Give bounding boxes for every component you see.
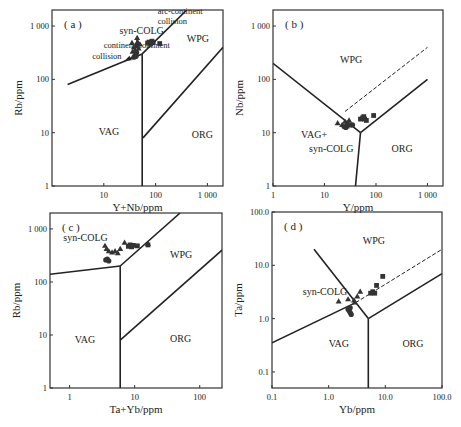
field-label: WPG <box>340 54 362 65</box>
triangle-marker-icon <box>346 117 352 122</box>
y-axis-label: Ta/ppm <box>232 283 244 317</box>
field-label: ORG <box>170 333 191 344</box>
square-marker-icon <box>380 274 385 279</box>
panel-label: ( b ) <box>285 18 304 31</box>
y-tick-label: 1 <box>45 181 49 191</box>
y-tick-label: 1 <box>43 383 47 393</box>
square-marker-icon <box>157 41 162 46</box>
square-marker-icon <box>135 243 140 248</box>
square-marker-icon <box>131 243 136 248</box>
x-tick-label: 100 <box>149 190 162 200</box>
square-marker-icon <box>361 114 366 119</box>
y-tick-label: 10.0 <box>254 260 269 270</box>
triangle-marker-icon <box>336 298 342 303</box>
x-tick-label: 100.0 <box>432 392 451 402</box>
field-label: syn-COLG <box>119 25 163 36</box>
boundary-line <box>143 47 223 138</box>
field-label: VAG <box>329 338 349 349</box>
square-marker-icon <box>374 283 379 288</box>
x-tick-label: 1 000 <box>198 190 217 200</box>
field-label: VAG <box>75 334 95 345</box>
x-tick-label: 10 <box>130 392 139 402</box>
square-marker-icon <box>151 40 156 45</box>
square-marker-icon <box>371 113 376 118</box>
boundary-line <box>368 274 442 319</box>
x-tick-label: 0.1 <box>267 392 278 402</box>
field-boundaries <box>272 249 442 388</box>
y-axis-label: Rb/ppm <box>12 80 24 116</box>
y-tick-label: 100 <box>34 277 47 287</box>
y-tick-label: 1 000 <box>28 224 47 234</box>
annotation-label: collision <box>158 16 188 26</box>
triangle-marker-icon <box>357 289 363 294</box>
field-label: ORG <box>402 338 423 349</box>
panel-label: ( d ) <box>284 220 303 233</box>
square-marker-icon <box>146 243 151 248</box>
field-label: VAG+ <box>301 129 327 140</box>
arrow-head-icon <box>124 56 131 61</box>
field-label: syn-COLG <box>63 232 107 243</box>
triangle-marker-icon <box>354 293 360 298</box>
circle-marker-icon <box>348 305 353 310</box>
x-tick-label: 10 <box>320 190 329 200</box>
triangle-marker-icon <box>117 246 123 251</box>
boundary-line <box>361 79 428 132</box>
y-tick-label: 1 000 <box>251 21 270 31</box>
y-tick-label: 1 <box>266 181 270 191</box>
boundary-line <box>314 249 368 318</box>
annotation-label: collision <box>92 51 122 61</box>
tectonic-discrimination-figure: 101001 0001101001 000Y+Nb/ppmRb/ppm( a )… <box>0 0 461 427</box>
field-label: syn-COLG <box>303 286 347 297</box>
panel-c: 1101001101001 000Ta+Yb/ppmRb/ppm( c )syn… <box>10 213 222 415</box>
y-tick-label: 1 000 <box>30 21 49 31</box>
y-tick-label: 100.0 <box>250 207 269 217</box>
x-axis-label: Y+Nb/ppm <box>112 201 163 213</box>
x-tick-label: 100 <box>370 190 383 200</box>
circle-marker-icon <box>350 122 355 127</box>
x-tick-label: 100 <box>193 392 206 402</box>
y-tick-label: 0.1 <box>258 367 269 377</box>
field-label: WPG <box>187 33 209 44</box>
x-axis-label: Yb/ppm <box>339 403 376 415</box>
y-axis-label: Rb/ppm <box>10 282 22 318</box>
y-tick-label: 100 <box>257 74 270 84</box>
panel-a: 101001 0001101001 000Y+Nb/ppmRb/ppm( a )… <box>12 6 223 213</box>
x-tick-label: 1 000 <box>418 190 437 200</box>
y-tick-label: 10 <box>39 330 48 340</box>
triangle-marker-icon <box>345 296 351 301</box>
field-label: ORG <box>192 129 213 140</box>
circle-marker-icon <box>134 50 139 55</box>
x-axis-label: Y/ppm <box>343 201 374 213</box>
y-tick-label: 100 <box>36 74 49 84</box>
y-tick-label: 10 <box>262 128 271 138</box>
field-label: WPG <box>363 235 385 246</box>
field-label: syn-COLG <box>309 143 353 154</box>
data-points <box>335 113 376 130</box>
annotation-label: arc-continent <box>158 6 203 16</box>
x-tick-label: 1.0 <box>323 392 334 402</box>
field-label: VAG <box>99 126 119 137</box>
x-tick-label: 1 <box>271 190 275 200</box>
x-tick-label: 10.0 <box>378 392 393 402</box>
y-axis-label: Nb/ppm <box>233 80 245 117</box>
x-tick-label: 10 <box>100 190 109 200</box>
triangle-marker-icon <box>335 120 341 125</box>
y-tick-label: 10 <box>41 128 50 138</box>
x-axis-label: Ta+Yb/ppm <box>109 403 163 415</box>
square-marker-icon <box>372 291 377 296</box>
circle-marker-icon <box>349 312 354 317</box>
panel-label: ( a ) <box>64 18 82 31</box>
plot-frame <box>272 212 442 388</box>
x-tick-label: 1 <box>67 392 71 402</box>
boundary-line <box>50 266 120 274</box>
field-label: ORG <box>392 143 413 154</box>
y-tick-label: 1.0 <box>258 314 269 324</box>
boundary-line <box>120 250 222 340</box>
panel-b: 1101001 0001101001 000Y/ppmNb/ppm( b )WP… <box>233 10 443 213</box>
field-label: WPG <box>170 249 192 260</box>
circle-marker-icon <box>106 258 111 263</box>
field-boundaries <box>273 47 428 186</box>
boundary-line <box>356 133 361 186</box>
panel-d: 0.11.010.0100.00.11.010.0100.0Yb/ppmTa/p… <box>232 207 452 415</box>
